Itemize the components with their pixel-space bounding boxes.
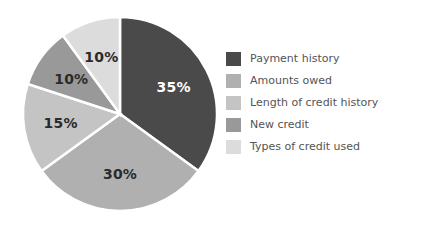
pie-slice-data-label: 10% xyxy=(54,71,88,87)
legend-color-swatch xyxy=(226,118,241,132)
legend-color-swatch xyxy=(226,140,241,154)
legend-item[interactable]: Payment history xyxy=(226,48,424,70)
pie-chart-svg: 35%30%15%10%10% xyxy=(18,8,223,223)
legend-item[interactable]: New credit xyxy=(226,114,424,136)
legend-item[interactable]: Length of credit history xyxy=(226,92,424,114)
legend-color-swatch xyxy=(226,74,241,88)
legend-item-label: New credit xyxy=(250,118,309,132)
pie-slice-data-label: 15% xyxy=(44,115,78,131)
legend-item-label: Types of credit used xyxy=(250,140,360,154)
legend-color-swatch xyxy=(226,52,241,66)
legend-item-label: Payment history xyxy=(250,52,340,66)
pie-chart-figure: 35%30%15%10%10% Payment historyAmounts o… xyxy=(0,0,427,231)
legend-item-label: Amounts owed xyxy=(250,74,332,88)
pie-chart-plot-area: 35%30%15%10%10% xyxy=(18,8,223,223)
pie-slice-data-label: 35% xyxy=(157,79,191,95)
chart-legend: Payment historyAmounts owedLength of cre… xyxy=(226,48,424,158)
legend-item[interactable]: Amounts owed xyxy=(226,70,424,92)
legend-color-swatch xyxy=(226,96,241,110)
pie-slice-data-label: 30% xyxy=(103,166,137,182)
pie-slice-data-label: 10% xyxy=(84,49,118,65)
legend-item[interactable]: Types of credit used xyxy=(226,136,424,158)
legend-item-label: Length of credit history xyxy=(250,96,378,110)
